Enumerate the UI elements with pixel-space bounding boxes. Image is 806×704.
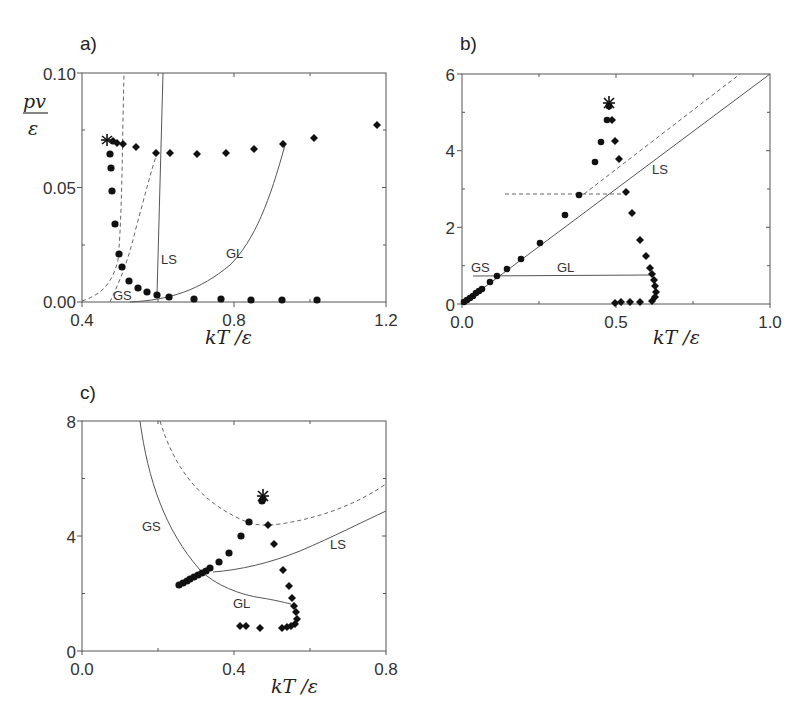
- curve-c-GS: [140, 421, 291, 604]
- series-c-star: [257, 489, 269, 503]
- panel-a-label: a): [80, 33, 97, 54]
- xtick-b-0.0: 0.0: [450, 313, 474, 332]
- xlabel-a: kT /ε: [205, 326, 252, 348]
- series-b-diamonds: [608, 116, 660, 307]
- label-b-LS: LS: [652, 162, 668, 177]
- series-a-diamonds: [109, 121, 381, 158]
- label-a-GL: GL: [226, 246, 243, 261]
- ylabel-a-denominator: ε: [28, 117, 38, 139]
- label-c-GL: GL: [233, 596, 250, 611]
- xtick-c-0.0: 0.0: [70, 660, 94, 679]
- xlabel-c: kT /ε: [271, 675, 318, 697]
- label-a-GS: GS: [113, 288, 132, 303]
- series-b-star: [603, 96, 615, 110]
- ytick-c-4: 4: [67, 528, 76, 547]
- curve-a-GL: [130, 145, 285, 302]
- xtick-a-1.2: 1.2: [374, 311, 398, 330]
- panel-b-label: b): [460, 33, 477, 54]
- curve-a-dashed-right: [110, 153, 157, 302]
- ytick-c-8: 8: [67, 413, 76, 432]
- series-b-circles: [461, 117, 611, 306]
- ytick-a-0.00: 0.00: [43, 293, 76, 312]
- ytick-b-6: 6: [446, 66, 455, 85]
- label-a-LS: LS: [161, 252, 177, 267]
- ytick-a-0.10: 0.10: [43, 65, 76, 84]
- curve-a-dashed-left: [82, 73, 124, 301]
- label-c-LS: LS: [330, 537, 346, 552]
- label-b-GL: GL: [557, 260, 574, 275]
- ytick-b-2: 2: [446, 219, 455, 238]
- label-b-GS: GS: [471, 260, 490, 275]
- xlabel-b: kT /ε: [653, 326, 700, 348]
- series-c-diamonds: [236, 521, 301, 632]
- xtick-b-1.0: 1.0: [758, 313, 782, 332]
- panel-c-frame: [82, 421, 386, 651]
- panel-a: a) 0.10 0.05 0.00 0.4 0.8 1.2 kT /ε pv ε…: [23, 33, 398, 348]
- panel-c-label: c): [80, 382, 96, 403]
- xtick-c-0.8: 0.8: [374, 660, 398, 679]
- series-a-star: [101, 134, 113, 146]
- label-c-GS: GS: [142, 519, 161, 534]
- panel-c: c) 8 4 0 0.0 0.4 0.8 kT /ε GS LS GL: [67, 382, 398, 697]
- curve-c-dashed: [160, 421, 386, 525]
- xtick-a-0.4: 0.4: [70, 311, 94, 330]
- figure: a) 0.10 0.05 0.00 0.4 0.8 1.2 kT /ε pv ε…: [0, 0, 806, 704]
- xtick-c-0.4: 0.4: [222, 660, 246, 679]
- ytick-a-0.05: 0.05: [43, 179, 76, 198]
- ytick-b-4: 4: [446, 142, 455, 161]
- panel-b: b) 6 4 2 0 0.0 0.5 1.0 kT /ε LS GS GL: [446, 33, 782, 348]
- panel-a-frame: [82, 73, 386, 302]
- xtick-b-0.5: 0.5: [604, 313, 628, 332]
- panel-a-ticks: [77, 73, 386, 307]
- series-a-circles: [106, 150, 320, 303]
- series-c-circles: [175, 497, 265, 588]
- ylabel-a-numerator: pv: [23, 90, 46, 112]
